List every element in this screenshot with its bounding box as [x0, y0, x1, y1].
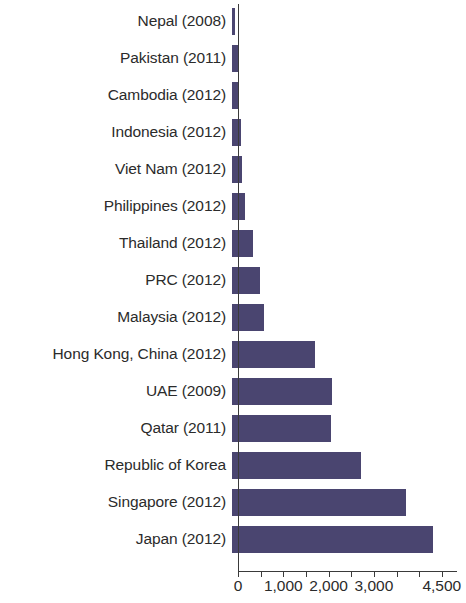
bar-row: Thailand (2012)	[0, 225, 466, 262]
category-label: Republic of Korea	[0, 457, 232, 473]
bar-row: Malaysia (2012)	[0, 299, 466, 336]
x-axis-tick	[419, 571, 420, 577]
bar-row: Nepal (2008)	[0, 3, 466, 40]
bar-cell	[232, 410, 466, 447]
bar-row: Indonesia (2012)	[0, 114, 466, 151]
category-label: Hong Kong, China (2012)	[0, 346, 232, 362]
bar-cell	[232, 188, 466, 225]
bar	[232, 230, 253, 257]
x-axis-tick-label: 1,000	[264, 578, 303, 594]
bar-cell	[232, 77, 466, 114]
bar	[232, 304, 264, 331]
x-axis-tick-label: 0	[234, 578, 243, 594]
y-axis-spine	[238, 4, 239, 571]
bar	[232, 45, 238, 72]
bar	[232, 341, 315, 368]
category-label: Singapore (2012)	[0, 494, 232, 510]
bar-cell	[232, 521, 466, 558]
category-label: Japan (2012)	[0, 531, 232, 547]
x-axis-tick	[261, 571, 262, 577]
bar-cell	[232, 3, 466, 40]
category-label: Philippines (2012)	[0, 198, 232, 214]
bar	[232, 119, 241, 146]
x-axis-tick-label: 2,000	[309, 578, 348, 594]
category-label: PRC (2012)	[0, 272, 232, 288]
bar-cell	[232, 447, 466, 484]
bar-row: Hong Kong, China (2012)	[0, 336, 466, 373]
bar-cell	[232, 40, 466, 77]
bar	[232, 415, 331, 442]
category-label: UAE (2009)	[0, 383, 232, 399]
bar-cell	[232, 114, 466, 151]
category-label: Pakistan (2011)	[0, 50, 232, 66]
bar	[232, 156, 242, 183]
bar-row: Viet Nam (2012)	[0, 151, 466, 188]
category-label: Viet Nam (2012)	[0, 161, 232, 177]
bar-cell	[232, 262, 466, 299]
bar-cell	[232, 299, 466, 336]
x-axis-tick-label: 3,000	[354, 578, 393, 594]
bar-cell	[232, 225, 466, 262]
bar-rows: Nepal (2008)Pakistan (2011)Cambodia (201…	[0, 3, 466, 558]
x-axis-tick-label: 4,500	[422, 578, 461, 594]
bar-row: Philippines (2012)	[0, 188, 466, 225]
bar-cell	[232, 151, 466, 188]
category-label: Thailand (2012)	[0, 235, 232, 251]
plot-area: Nepal (2008)Pakistan (2011)Cambodia (201…	[0, 0, 466, 603]
bar-row: Pakistan (2011)	[0, 40, 466, 77]
bar-row: PRC (2012)	[0, 262, 466, 299]
bar	[232, 378, 332, 405]
bar-row: Japan (2012)	[0, 521, 466, 558]
bar-chart: Nepal (2008)Pakistan (2011)Cambodia (201…	[0, 0, 466, 603]
bar-cell	[232, 336, 466, 373]
bar-row: Singapore (2012)	[0, 484, 466, 521]
category-label: Cambodia (2012)	[0, 87, 232, 103]
bar-row: UAE (2009)	[0, 373, 466, 410]
bar	[232, 526, 433, 553]
x-axis-tick	[306, 571, 307, 577]
bar	[232, 267, 260, 294]
bar-row: Cambodia (2012)	[0, 77, 466, 114]
bar-cell	[232, 484, 466, 521]
x-axis-tick	[351, 571, 352, 577]
category-label: Qatar (2011)	[0, 420, 232, 436]
bar-row: Qatar (2011)	[0, 410, 466, 447]
category-label: Malaysia (2012)	[0, 309, 232, 325]
bar	[232, 452, 361, 479]
x-axis-tick	[397, 571, 398, 577]
bar-row: Republic of Korea	[0, 447, 466, 484]
x-axis-line	[238, 571, 457, 572]
category-label: Indonesia (2012)	[0, 124, 232, 140]
bar-cell	[232, 373, 466, 410]
bar	[232, 489, 406, 516]
bar	[232, 8, 235, 35]
category-label: Nepal (2008)	[0, 13, 232, 29]
